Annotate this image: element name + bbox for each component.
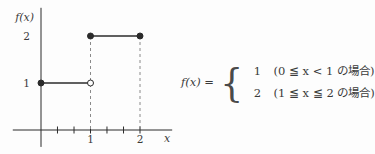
equation-cases: 1 (0 ≦ x < 1 の場合) 2 (1 ≦ x ≦ 2 の場合) <box>251 60 374 104</box>
y-value-label: 2 <box>23 30 30 42</box>
case-value: 1 <box>251 60 263 82</box>
case-row-1: 1 (0 ≦ x < 1 の場合) <box>251 60 374 82</box>
data-point-open <box>88 80 94 86</box>
data-point-closed <box>137 33 143 39</box>
data-point-closed <box>38 80 44 86</box>
y-axis-label: f(x) <box>14 11 34 24</box>
case-condition: (0 ≦ x < 1 の場合) <box>273 60 374 82</box>
x-axis-label: x <box>164 132 171 145</box>
y-value-label: 1 <box>23 77 30 89</box>
case-row-2: 2 (1 ≦ x ≦ 2 の場合) <box>251 82 374 104</box>
case-condition: (1 ≦ x ≦ 2 の場合) <box>273 82 374 104</box>
x-tick-label: 1 <box>87 133 94 145</box>
curly-brace: { <box>220 62 243 102</box>
x-tick-label: 2 <box>137 133 144 145</box>
data-point-closed <box>88 33 94 39</box>
case-value: 2 <box>251 82 263 104</box>
piecewise-definition: f(x) = { 1 (0 ≦ x < 1 の場合) 2 (1 ≦ x ≦ 2 … <box>181 56 375 108</box>
equation-lhs: f(x) = <box>181 75 214 89</box>
